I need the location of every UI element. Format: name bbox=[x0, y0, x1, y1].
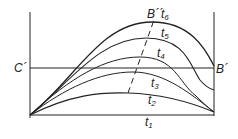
label-t4: t4 bbox=[157, 46, 165, 61]
label-t1: t1 bbox=[145, 115, 153, 130]
label-t3: t3 bbox=[151, 76, 159, 91]
label-b-prime: B´ bbox=[216, 62, 228, 76]
profile-diagram: C´ B´ B´´ t6 t5 t4 t3 t2 t1 bbox=[0, 0, 238, 139]
curve-t3 bbox=[30, 72, 214, 115]
label-c-prime: C´ bbox=[14, 61, 27, 75]
curve-t4 bbox=[30, 57, 214, 115]
label-t6: t6 bbox=[161, 7, 169, 22]
label-t5: t5 bbox=[161, 26, 169, 41]
